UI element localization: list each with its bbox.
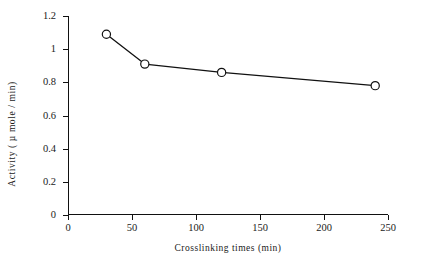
y-tick-label: 0.8 (43, 77, 56, 88)
data-point-marker (218, 68, 226, 76)
y-tick-label: 0.4 (43, 143, 56, 154)
x-tick-label: 0 (65, 223, 70, 234)
chart-figure: Activity ( µ mole / min) 00.20.40.60.811… (0, 0, 437, 267)
x-tick-label: 150 (252, 223, 268, 234)
y-tick-label: 1.2 (43, 11, 56, 22)
x-tick-label: 50 (127, 223, 138, 234)
y-tick-label: 0.2 (43, 177, 56, 188)
x-tick-mark: 0 (68, 215, 69, 220)
y-tick-label: 0 (51, 210, 56, 221)
x-tick-label: 200 (316, 223, 332, 234)
data-point-marker (141, 60, 149, 68)
x-tick-label: 250 (380, 223, 396, 234)
plot-area: 00.20.40.60.811.2 050100150200250 (68, 16, 388, 215)
x-tick-label: 100 (188, 223, 204, 234)
x-tick-mark: 50 (132, 215, 133, 220)
y-tick-label: 1 (51, 44, 56, 55)
y-tick-label: 0.6 (43, 110, 56, 121)
x-axis-title: Crosslinking times (min) (68, 243, 388, 253)
y-axis-title: Activity ( µ mole / min) (7, 81, 17, 187)
x-tick-mark: 150 (260, 215, 261, 220)
data-series-activity (68, 16, 388, 215)
x-tick-mark: 250 (388, 215, 389, 220)
x-tick-mark: 200 (324, 215, 325, 220)
data-point-marker (102, 30, 110, 38)
data-point-marker (371, 82, 379, 90)
x-tick-mark: 100 (196, 215, 197, 220)
